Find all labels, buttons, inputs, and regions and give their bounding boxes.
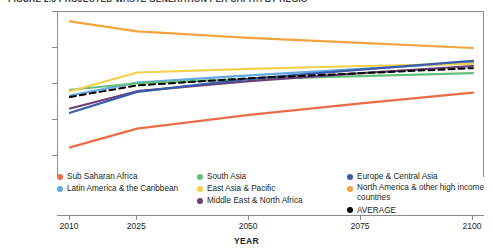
series-line <box>70 21 473 48</box>
legend-item[interactable]: North America & other high income countr… <box>347 183 487 204</box>
x-tick-label: 2025 <box>127 221 146 231</box>
msw-generation-per-capita-chart: FIGURE 2.3 PROJECTED WASTE GENERATION PE… <box>0 0 493 252</box>
x-tick-mark <box>248 216 249 220</box>
legend-item[interactable]: East Asia & Pacific <box>197 183 347 195</box>
legend-column-1: Sub Saharan AfricaLatin America & the Ca… <box>57 171 197 195</box>
x-tick-label: 2050 <box>239 221 258 231</box>
legend-column-2: South AsiaEast Asia & PacificMiddle East… <box>197 171 347 207</box>
legend-item[interactable]: AVERAGE <box>347 205 487 217</box>
legend-swatch-icon <box>57 174 63 180</box>
legend-item-label: Europe & Central Asia <box>357 171 438 182</box>
legend-item-label: East Asia & Pacific <box>207 183 275 194</box>
legend-item[interactable]: Latin America & the Caribbean <box>57 183 197 195</box>
legend-column-3: Europe & Central AsiaNorth America & oth… <box>347 171 487 217</box>
legend-item[interactable]: South Asia <box>197 171 347 183</box>
figure-title-clipped: FIGURE 2.3 PROJECTED WASTE GENERATION PE… <box>8 0 308 3</box>
x-tick-label: 2100 <box>463 221 482 231</box>
legend-swatch-icon <box>347 186 353 192</box>
x-axis-title: YEAR <box>0 236 493 246</box>
legend-item-label: Latin America & the Caribbean <box>67 183 178 194</box>
legend-item-label: Middle East & North Africa <box>207 195 303 206</box>
x-tick-label: 2010 <box>60 221 79 231</box>
legend: Sub Saharan AfricaLatin America & the Ca… <box>57 171 484 213</box>
legend-swatch-icon <box>347 174 353 180</box>
x-tick-mark <box>472 216 473 220</box>
series-line <box>70 93 473 148</box>
legend-item-label: Sub Saharan Africa <box>67 171 138 182</box>
legend-swatch-icon <box>57 186 63 192</box>
legend-swatch-icon <box>197 186 203 192</box>
series-lines <box>58 12 485 178</box>
legend-swatch-icon <box>197 198 203 204</box>
plot-area <box>57 11 484 177</box>
legend-item[interactable]: Europe & Central Asia <box>347 171 487 183</box>
legend-item-label: AVERAGE <box>357 205 396 216</box>
legend-item[interactable]: Middle East & North Africa <box>197 195 347 207</box>
legend-item[interactable]: Sub Saharan Africa <box>57 171 197 183</box>
x-tick-mark <box>69 216 70 220</box>
x-tick-label: 2075 <box>351 221 370 231</box>
x-tick-mark <box>360 216 361 220</box>
legend-item-label: South Asia <box>207 171 246 182</box>
legend-item-label: North America & other high income countr… <box>357 183 487 203</box>
x-tick-mark <box>136 216 137 220</box>
legend-swatch-icon <box>347 207 353 213</box>
legend-swatch-icon <box>197 174 203 180</box>
